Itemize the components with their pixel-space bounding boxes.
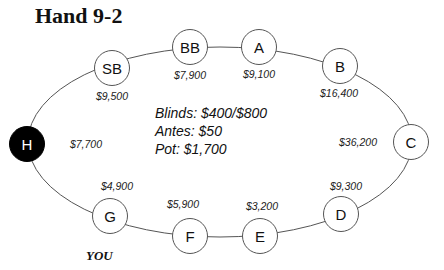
- blinds-text: Blinds: $400/$800: [155, 104, 267, 122]
- seat-label: BB: [180, 39, 200, 56]
- seat-label: H: [22, 136, 33, 153]
- stack-e: $3,200: [246, 200, 278, 212]
- seat-sb: SB: [94, 50, 130, 86]
- seat-label: SB: [102, 60, 122, 77]
- seat-label: D: [336, 206, 347, 223]
- seat-label: E: [255, 228, 265, 245]
- stack-sb: $9,500: [96, 90, 128, 102]
- seat-h-hero: H: [9, 126, 45, 162]
- stack-c: $36,200: [339, 136, 377, 148]
- stack-bb: $7,900: [174, 69, 206, 81]
- antes-text: Antes: $50: [155, 122, 267, 140]
- stack-b: $16,400: [320, 87, 358, 99]
- seat-b: B: [322, 48, 358, 84]
- seat-a: A: [241, 29, 277, 65]
- pot-text: Pot: $1,700: [155, 140, 267, 158]
- seat-label: F: [185, 228, 194, 245]
- stack-a: $9,100: [243, 68, 275, 80]
- seat-label: B: [335, 58, 345, 75]
- seat-label: A: [254, 39, 264, 56]
- seat-label: G: [104, 208, 116, 225]
- stack-f: $5,900: [167, 198, 199, 210]
- seat-label: C: [406, 134, 417, 151]
- seat-e: E: [242, 218, 278, 254]
- stack-h: $7,700: [70, 138, 102, 150]
- you-label: YOU: [86, 248, 113, 264]
- stack-g: $4,900: [101, 180, 133, 192]
- seat-c: C: [393, 124, 429, 160]
- seat-d: D: [323, 196, 359, 232]
- stack-d: $9,300: [330, 180, 362, 192]
- seat-g: G: [92, 198, 128, 234]
- hand-info: Blinds: $400/$800 Antes: $50 Pot: $1,700: [155, 104, 267, 158]
- seat-f: F: [172, 218, 208, 254]
- seat-bb: BB: [172, 29, 208, 65]
